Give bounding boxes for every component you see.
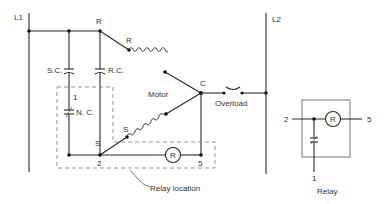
relay-location-label: Relay location bbox=[150, 184, 200, 193]
run-coil-icon bbox=[129, 48, 168, 52]
relay-detail-terminal-5: 5 bbox=[367, 115, 372, 124]
nc-contact-label: N. C. bbox=[76, 108, 94, 117]
terminal-2-label: 2 bbox=[97, 159, 102, 168]
run-winding: R bbox=[100, 31, 201, 93]
start-coil-icon bbox=[127, 112, 166, 137]
common-node: C bbox=[199, 79, 206, 155]
terminal-r-top-label: R bbox=[96, 17, 102, 26]
start-winding-label: S bbox=[123, 125, 128, 134]
run-capacitor-branch: R.C. bbox=[95, 31, 124, 155]
relay-coil-wire: R S 2 5 bbox=[67, 139, 203, 168]
start-capacitor-branch: S.C. 1 N. C. bbox=[47, 31, 94, 155]
overload: Overload bbox=[201, 87, 268, 108]
motor-label: Motor bbox=[148, 90, 169, 99]
relay-terminal-1-label: 1 bbox=[73, 93, 78, 102]
overload-icon bbox=[226, 87, 240, 90]
leader-arrow-icon bbox=[130, 170, 138, 179]
l1-label: L1 bbox=[14, 13, 23, 22]
start-capacitor-label: S.C. bbox=[47, 66, 63, 75]
overload-label: Overload bbox=[215, 99, 247, 108]
top-bus: R bbox=[27, 17, 102, 33]
relay-location-outline: Relay location bbox=[57, 87, 215, 193]
relay-detail: 2 R 5 1 Relay bbox=[284, 100, 372, 196]
terminal-s-label: S bbox=[95, 139, 100, 148]
relay-detail-coil-label: R bbox=[330, 115, 336, 124]
common-label: C bbox=[200, 79, 206, 88]
start-winding: S bbox=[100, 93, 201, 155]
relay-detail-terminal-1: 1 bbox=[312, 174, 317, 183]
l1-line: L1 bbox=[14, 13, 29, 172]
l2-label: L2 bbox=[272, 15, 281, 24]
relay-coil-label: R bbox=[170, 151, 176, 160]
relay-detail-title: Relay bbox=[317, 187, 337, 196]
relay-detail-terminal-2: 2 bbox=[284, 115, 289, 124]
run-winding-label: R bbox=[126, 36, 132, 45]
l2-line: L2 bbox=[266, 13, 281, 174]
terminal-5-label: 5 bbox=[198, 159, 203, 168]
run-capacitor-label: R.C. bbox=[108, 66, 124, 75]
schematic-canvas: L1 R S.C. 1 N. C. R.C. bbox=[0, 0, 387, 204]
junction-node bbox=[27, 29, 31, 33]
